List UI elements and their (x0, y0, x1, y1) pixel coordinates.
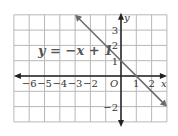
x-tick-label: −3 (68, 78, 83, 89)
tick-labels: −6−5−4−3−212321−2 (22, 25, 155, 113)
coordinate-plane: −6−5−4−3−212321−2 y = −x + 1 x y O (0, 0, 178, 136)
x-tick-label: −6 (22, 78, 37, 89)
y-tick-label: −2 (103, 102, 118, 113)
x-tick-label: −2 (83, 78, 98, 89)
x-tick-label: 2 (148, 78, 154, 89)
x-tick-label: 1 (133, 78, 139, 89)
y-tick-label: 3 (112, 25, 118, 36)
x-axis-label: x (161, 78, 167, 89)
y-axis-label: y (123, 12, 130, 23)
x-tick-label: −4 (52, 78, 67, 89)
x-tick-label: −5 (37, 78, 52, 89)
equation-label: y = −x + 1 (37, 43, 113, 58)
origin-label: O (110, 78, 118, 89)
